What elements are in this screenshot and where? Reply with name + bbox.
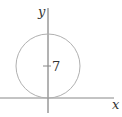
x-axis-label: x <box>112 97 120 112</box>
y-axis-label: y <box>37 4 46 19</box>
center-label: 7 <box>52 59 60 74</box>
coordinate-diagram: y 7 x <box>0 0 122 117</box>
